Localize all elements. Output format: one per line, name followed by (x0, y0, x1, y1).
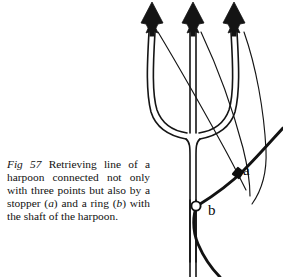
ring (191, 201, 200, 210)
retrieving-line-thin-right (244, 32, 266, 204)
point-right-neck (232, 28, 236, 36)
retrieving-lines-thin (158, 32, 266, 204)
point-right-head (223, 2, 245, 28)
figure-label-a: a (243, 163, 250, 178)
ring-circle (191, 201, 200, 210)
harpoon-point-right (223, 2, 245, 36)
point-middle-neck (191, 28, 195, 36)
figure-page: a b Fig 57 Retrieving line of a harpoon … (0, 0, 283, 277)
harpoon-points (141, 2, 245, 36)
stopper-knot (233, 168, 243, 178)
stopper-shape (233, 168, 243, 178)
point-left-head (141, 2, 163, 28)
figure-label-b: b (208, 203, 216, 218)
harpoon-point-left (141, 2, 163, 36)
point-middle-head (182, 2, 204, 28)
figure-number: Fig 57 (7, 158, 41, 170)
harpoon-illustration (0, 0, 283, 277)
harpoon-frame (147, 32, 238, 277)
point-left-neck (150, 28, 154, 36)
caption-segment-2: ) and a ring ( (54, 197, 117, 209)
figure-caption: Fig 57 Retrieving line of a harpoon conn… (7, 158, 150, 223)
prong-left-inner-edge (153, 32, 187, 133)
harpoon-point-middle (182, 2, 204, 36)
prong-right-inner-edge (199, 32, 233, 133)
